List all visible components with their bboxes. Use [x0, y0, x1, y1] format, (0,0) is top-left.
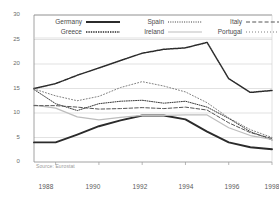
xtick-label-1998: 1998: [254, 183, 279, 190]
legend-label-spain: Spain: [120, 18, 164, 25]
legend-label-italy: Italy: [200, 18, 242, 25]
axis-ticks: [56, 162, 272, 165]
legend-label-greece: Greece: [34, 28, 82, 35]
series-line-portugal: [34, 82, 272, 138]
line-solid-thick-icon: [86, 19, 120, 25]
series-lines: [34, 42, 272, 149]
chart-container: 30 25 20 15 10 5 0 1988 1990 1992 1994 1…: [0, 0, 279, 207]
xtick-label-1996: 1996: [214, 183, 250, 190]
ytick-label-0: 0: [2, 158, 20, 164]
ytick-label-15: 15: [2, 85, 20, 91]
series-line-greece: [34, 42, 272, 92]
legend-label-germany: Germany: [34, 18, 82, 25]
line-dashed-icon: [246, 19, 279, 25]
legend-item-portugal[interactable]: Portugal: [200, 28, 279, 35]
ytick-label-10: 10: [2, 109, 20, 115]
source-note: Source: Eurostat: [36, 163, 75, 169]
ytick-label-5: 5: [2, 134, 20, 140]
legend-item-italy[interactable]: Italy: [200, 18, 279, 25]
ytick-label-25: 25: [2, 36, 20, 42]
xtick-label-1988: 1988: [28, 183, 64, 190]
line-dotted-fine-icon: [168, 19, 202, 25]
xtick-label-1994: 1994: [168, 183, 204, 190]
legend-item-germany[interactable]: Germany: [34, 18, 120, 25]
ytick-label-30: 30: [2, 11, 20, 17]
legend-label-portugal: Portugal: [200, 28, 242, 35]
line-dotted-sparse-icon: [246, 29, 279, 35]
xtick-label-1992: 1992: [122, 183, 158, 190]
legend-item-greece[interactable]: Greece: [34, 28, 120, 35]
ytick-label-20: 20: [2, 60, 20, 66]
line-solid-light-icon: [168, 29, 202, 35]
legend-item-ireland[interactable]: Ireland: [120, 28, 202, 35]
line-dotted-dark-icon: [86, 29, 120, 35]
legend-item-spain[interactable]: Spain: [120, 18, 202, 25]
xtick-label-1990: 1990: [75, 183, 111, 190]
series-line-germany: [34, 115, 272, 149]
legend-label-ireland: Ireland: [120, 28, 164, 35]
